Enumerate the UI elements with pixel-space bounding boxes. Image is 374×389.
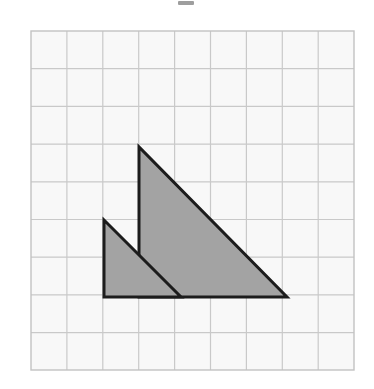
figure-root: Two shaded right triangles on a square g… bbox=[0, 0, 374, 389]
grid-figure-canvas bbox=[0, 0, 374, 389]
